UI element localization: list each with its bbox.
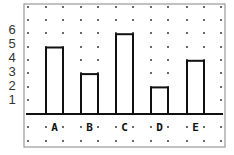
bar-a (46, 48, 63, 115)
grid-dot (115, 6, 117, 8)
grid-dot (167, 6, 169, 8)
grid-dot (27, 72, 29, 74)
x-label-a: A (51, 121, 58, 134)
y-tick-label: 6 (8, 22, 15, 37)
x-label-d: D (156, 121, 163, 134)
grid-dot (167, 46, 169, 48)
grid-dot (62, 126, 64, 128)
grid-dot (45, 140, 47, 142)
grid-dot (220, 126, 222, 128)
grid-dot (203, 126, 205, 128)
bar-c (116, 34, 133, 114)
grid-dot (45, 6, 47, 8)
grid-dot (186, 126, 188, 128)
grid-dot (220, 46, 222, 48)
grid-dot (186, 6, 188, 8)
grid-dot (220, 72, 222, 74)
grid-dot (80, 59, 82, 61)
grid-dot (150, 140, 152, 142)
grid-dot (27, 32, 29, 34)
grid-dot (132, 140, 134, 142)
grid-dot (97, 32, 99, 34)
grid-dot (62, 6, 64, 8)
grid-dot (186, 32, 188, 34)
grid-dot (27, 46, 29, 48)
grid-dot (203, 6, 205, 8)
grid-dot (97, 140, 99, 142)
grid-dot (167, 19, 169, 21)
grid-dot (132, 126, 134, 128)
grid-dot (80, 19, 82, 21)
grid-dot (150, 59, 152, 61)
y-axis-labels: 123456 (8, 22, 15, 107)
grid-dot (97, 126, 99, 128)
y-tick-label: 3 (8, 64, 15, 79)
grid-dot (150, 6, 152, 8)
grid-dot (167, 72, 169, 74)
grid-dot (150, 19, 152, 21)
grid-dot (203, 46, 205, 48)
grid-dot (80, 140, 82, 142)
grid-dot (80, 32, 82, 34)
grid-dot (62, 140, 64, 142)
bar-e (187, 61, 204, 114)
grid-dot (132, 6, 134, 8)
grid-dot (186, 46, 188, 48)
grid-dot (115, 126, 117, 128)
grid-dot (62, 32, 64, 34)
y-tick-label: 5 (8, 36, 15, 51)
grid-dot (27, 140, 29, 142)
grid-dot (97, 59, 99, 61)
grid-dot (203, 32, 205, 34)
grid-dot (150, 126, 152, 128)
x-label-e: E (192, 121, 199, 134)
grid-dot (27, 59, 29, 61)
grid-dot (97, 19, 99, 21)
grid-dot (27, 126, 29, 128)
grid-dot (203, 140, 205, 142)
grid-dot (186, 19, 188, 21)
grid-dot (27, 86, 29, 88)
y-tick-label: 1 (8, 92, 15, 107)
grid-dot (115, 140, 117, 142)
grid-dot (167, 59, 169, 61)
grid-dot (220, 19, 222, 21)
grid-dot (220, 140, 222, 142)
grid-dot (150, 46, 152, 48)
grid-dot (27, 19, 29, 21)
grid-dot (186, 140, 188, 142)
grid-dot (97, 6, 99, 8)
grid-dot (220, 6, 222, 8)
grid-dot (115, 19, 117, 21)
grid-dot (220, 59, 222, 61)
grid-dot (167, 140, 169, 142)
bar-b (81, 74, 98, 114)
grid-dot (150, 72, 152, 74)
grid-dot (97, 46, 99, 48)
y-tick-label: 2 (8, 78, 15, 93)
grid-dot (62, 19, 64, 21)
grid-dot (150, 32, 152, 34)
grid-dot (203, 19, 205, 21)
x-label-c: C (121, 121, 128, 134)
grid-dot (45, 19, 47, 21)
grid-dot (27, 99, 29, 101)
grid-dot (27, 6, 29, 8)
bar-d (151, 87, 168, 114)
grid-dot (45, 126, 47, 128)
grid-dot (80, 46, 82, 48)
grid-dot (80, 6, 82, 8)
grid-dot (220, 99, 222, 101)
x-label-b: B (86, 121, 93, 134)
grid-dot (167, 126, 169, 128)
grid-dot (132, 19, 134, 21)
grid-dot (80, 126, 82, 128)
grid-dot (45, 32, 47, 34)
grid-dot (220, 86, 222, 88)
grid-dot (167, 32, 169, 34)
y-tick-label: 4 (8, 50, 15, 65)
bar-chart: 123456 ABCDE (0, 0, 234, 155)
grid-dot (220, 32, 222, 34)
